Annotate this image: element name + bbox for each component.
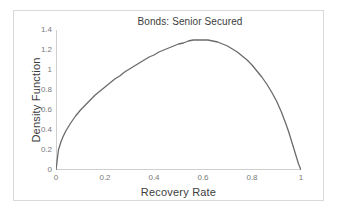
y-axis-tick-label: 1 [26,66,52,74]
plot-area [56,30,301,170]
x-axis-tick-labels: 00.20.40.60.81 [56,174,301,186]
y-axis-tick-labels: 00.20.40.60.811.21.4 [22,30,52,170]
x-axis-tick-label: 0.4 [139,174,169,182]
x-axis-title: Recovery Rate [56,186,301,198]
x-axis-tick-label: 0.6 [188,174,218,182]
x-axis-tick-label: 0.2 [90,174,120,182]
y-axis-tick-label: 0.6 [26,106,52,114]
chart-title: Bonds: Senior Secured [60,16,320,27]
y-axis-tick-label: 0.2 [26,146,52,154]
chart-page: Bonds: Senior Secured Density Function R… [0,0,338,213]
y-axis-tick-label: 1.4 [26,26,52,34]
density-curve [56,40,301,170]
density-plot-svg [56,30,301,170]
x-axis-tick-label: 1 [286,174,316,182]
y-axis-tick-label: 0.8 [26,86,52,94]
y-axis-tick-label: 1.2 [26,46,52,54]
x-axis-tick-label: 0 [41,174,71,182]
y-axis-tick-label: 0.4 [26,126,52,134]
x-axis-tick-label: 0.8 [237,174,267,182]
y-axis-tick-label: 0 [26,166,52,174]
